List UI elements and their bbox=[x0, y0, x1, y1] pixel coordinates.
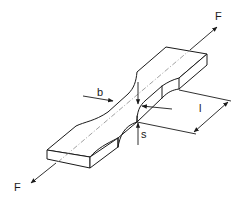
specimen-top-face bbox=[47, 47, 207, 157]
force-label-bottom: F bbox=[14, 181, 21, 193]
width-arrow-right bbox=[142, 106, 172, 109]
force-label-top: F bbox=[215, 10, 222, 22]
thickness-label: s bbox=[141, 128, 147, 140]
force-arrow-top bbox=[190, 27, 217, 50]
length-extension-upper bbox=[179, 90, 231, 101]
width-label: b bbox=[97, 86, 103, 98]
specimen bbox=[47, 47, 207, 168]
force-arrow-bottom bbox=[31, 163, 56, 183]
tensile-specimen-diagram: F F b s l bbox=[0, 0, 245, 205]
length-label: l bbox=[199, 102, 201, 114]
